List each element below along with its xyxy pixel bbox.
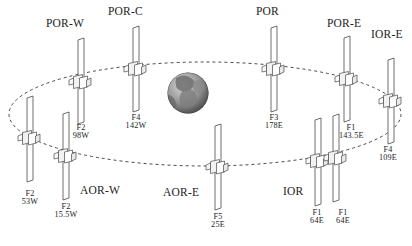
satellite-sat-f3-178e [262,26,284,112]
antenna-stub [54,152,59,159]
satellite-label-sat-f1-64e-a: F164E [305,209,329,226]
satellite-label-sat-f4-142w: F4142W [124,114,148,131]
antenna-stub [262,65,267,72]
satellite-sat-f2-53w [18,96,40,182]
satellite-longitude: 25E [206,221,230,229]
region-label-por-w: POR-W [46,18,84,30]
satellite-bus [69,75,91,90]
antenna-stub [379,97,384,104]
satellite-longitude: 53W [18,198,42,206]
satellite-label-sat-f1-64e-b: F164E [331,209,355,226]
satellite-label-sat-f2-155w: F215.5W [54,203,78,220]
antenna-stub [69,78,74,85]
satellite-bus [379,94,401,109]
antenna-stub [124,65,129,72]
satellite-bus [262,62,284,77]
region-label-por-c: POR-C [108,6,143,18]
satellite-sat-f2-98w [69,38,91,124]
satellite-bus [335,72,357,87]
satellite-longitude: 64E [331,217,355,225]
region-label-aor-w: AOR-W [80,185,120,197]
satellite-longitude: 178E [262,122,286,130]
region-label-por: POR [256,6,279,18]
region-label-por-e: POR-E [327,18,361,30]
satellite-sat-f5-25e [206,124,228,210]
antenna-stub [206,163,211,170]
satellite-bus [206,160,228,175]
satellite-layer [18,26,401,210]
satellite-sat-f1-64e-a [306,118,328,206]
satellite-label-sat-f5-25e: F525E [206,213,230,230]
satellite-bus [124,62,146,77]
satellite-longitude: 64E [305,217,329,225]
satellite-longitude: 143.5E [339,132,363,140]
satellite-label-sat-f1-1435e: F1143.5E [339,124,363,141]
region-label-ior-e: IOR-E [371,29,403,41]
satellite-longitude: 15.5W [54,211,78,219]
satellite-sat-f4-142w [124,26,146,112]
satellite-label-sat-f4-109e: F4109E [376,146,400,163]
satellite-label-sat-f2-53w: F253W [18,190,42,207]
satellite-sat-f1-1435e [335,36,357,122]
satellite-bus [18,131,40,146]
earth-globe [162,73,209,115]
region-label-aor-e: AOR-E [163,187,199,199]
satellite-longitude: 98W [69,132,93,140]
satellite-bus [54,149,76,164]
satellite-constellation-diagram: POR-WPOR-CPORPOR-EIOR-EAOR-WAOR-EIOR F25… [0,0,412,246]
satellite-longitude: 109E [376,154,400,162]
antenna-stub [18,134,23,141]
satellite-label-sat-f3-178e: F3178E [262,114,286,131]
satellite-longitude: 142W [124,122,148,130]
region-label-ior: IOR [283,186,303,198]
antenna-stub [335,75,340,82]
satellite-label-sat-f2-98w: F298W [69,124,93,141]
satellite-sat-f4-109e [379,58,401,144]
